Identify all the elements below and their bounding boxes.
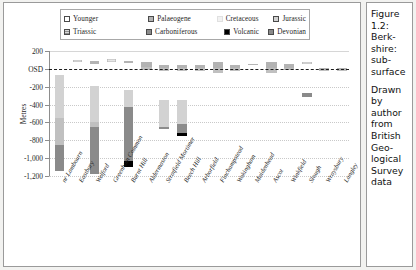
bar-segment-carboniferous	[159, 127, 169, 129]
bar-segment-cretaceous	[73, 60, 82, 61]
bar-segment-carboniferous	[177, 124, 187, 132]
y-axis-tick-label: -1,200	[24, 172, 43, 181]
y-axis-tick-label: -600	[29, 118, 43, 127]
bar-segment-jurassic	[159, 100, 169, 127]
x-axis-labels: nr LambournEastburyWelfordGreenham Commo…	[49, 178, 349, 270]
legend-label-palaeogene: Palaeogene	[157, 15, 191, 23]
bar-segment-devonian	[302, 93, 312, 96]
legend-row-1: Younger Palaeogene Cretaceous Jurassic	[64, 12, 306, 25]
legend-label-triassic: Triassic	[73, 28, 96, 36]
legend-item-cretaceous: Cretaceous	[217, 12, 274, 25]
figure-container: Younger Palaeogene Cretaceous Jurassic	[0, 0, 416, 270]
y-axis-tick-label: -1,000	[24, 154, 43, 163]
y-axis-tick-label: 200	[32, 47, 43, 56]
legend-label-cretaceous: Cretaceous	[226, 15, 259, 23]
bar-segment-volcanic	[177, 133, 187, 136]
bar-segment-devonian	[55, 145, 64, 171]
legend-swatch-jurassic	[273, 16, 279, 22]
legend-swatch-volcanic	[224, 29, 230, 35]
legend-row-2: Triassic Carboniferous Volcanic Devonian	[64, 25, 306, 38]
y-axis-tick	[45, 176, 49, 177]
legend-swatch-palaeogene	[148, 16, 154, 22]
osd-datum-line	[49, 69, 349, 70]
y-axis-tick-label: -400	[29, 100, 43, 109]
y-axis-tick-label: OSD	[28, 64, 43, 73]
bar-segment-jurassic	[124, 90, 134, 107]
bar-segment-cretaceous	[107, 59, 116, 62]
bar-segment-cretaceous	[248, 64, 258, 65]
legend-item-palaeogene: Palaeogene	[148, 12, 217, 25]
legend-label-younger: Younger	[73, 15, 98, 23]
bar-segment-cretaceous	[302, 62, 312, 63]
legend-item-jurassic: Jurassic	[273, 12, 306, 25]
legend-swatch-devonian	[268, 29, 274, 35]
legend-item-triassic: Triassic	[64, 25, 146, 38]
legend-label-volcanic: Volcanic	[233, 28, 259, 36]
gridline	[49, 176, 349, 177]
y-axis-tick-label: -200	[29, 82, 43, 91]
bar-segment-jurassic	[90, 86, 99, 123]
legend-swatch-younger	[64, 16, 70, 22]
legend-swatch-cretaceous	[217, 16, 223, 22]
chart-panel: Younger Palaeogene Cretaceous Jurassic	[3, 2, 361, 267]
bar-segment-triassic	[319, 70, 329, 71]
figure-caption: Figure 1.2: Berk-shire: sub-surface Draw…	[366, 2, 413, 267]
bar-segment-palaeogene	[90, 61, 99, 64]
caption-title: Figure 1.2: Berk-shire: sub-surface	[371, 8, 409, 78]
chart-legend: Younger Palaeogene Cretaceous Jurassic	[60, 9, 310, 40]
y-axis-tick-label: -800	[29, 136, 43, 145]
legend-label-jurassic: Jurassic	[282, 15, 306, 23]
caption-source: Drawn by author from British Geo-logical…	[371, 84, 409, 188]
legend-item-devonian: Devonian	[268, 25, 306, 38]
legend-swatch-carboniferous	[146, 29, 152, 35]
legend-label-carboniferous: Carboniferous	[155, 28, 197, 36]
bar-segment-jurassic	[177, 100, 187, 124]
legend-swatch-triassic	[64, 29, 70, 35]
legend-item-volcanic: Volcanic	[224, 25, 268, 38]
legend-item-younger: Younger	[64, 12, 148, 25]
bar-segment-jurassic	[55, 75, 64, 118]
legend-item-carboniferous: Carboniferous	[146, 25, 224, 38]
bar-segment-palaeogene	[124, 61, 134, 64]
legend-label-devonian: Devonian	[277, 28, 306, 36]
bar-segment-triassic	[55, 118, 64, 145]
bar-segment-triassic	[337, 70, 347, 71]
y-axis-title: Metres	[19, 103, 28, 124]
